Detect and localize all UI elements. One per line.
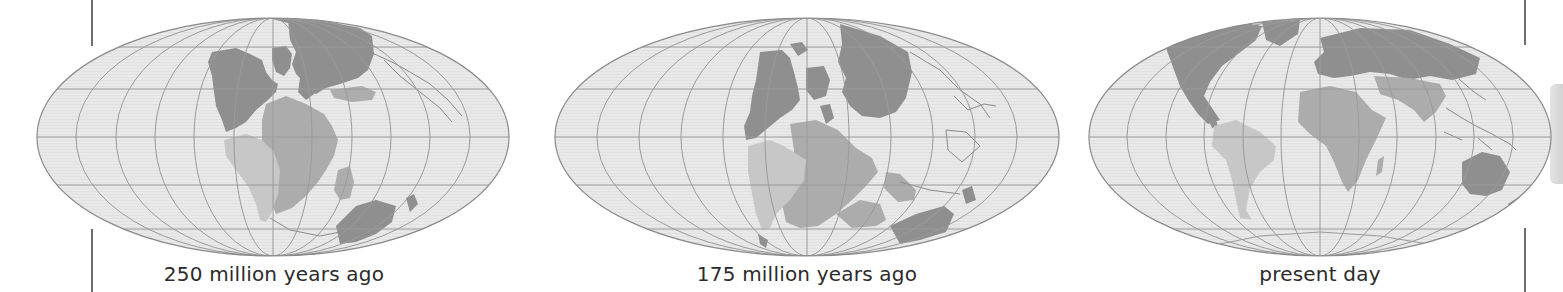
map-250-million-years-ago	[30, 18, 520, 256]
map-175-million-years-ago	[550, 18, 1065, 256]
caption-250-million-years-ago: 250 million years ago	[164, 262, 384, 286]
caption-175-million-years-ago: 175 million years ago	[697, 262, 917, 286]
map-present-day	[1080, 18, 1560, 256]
caption-present-day: present day	[1259, 262, 1380, 286]
continental-drift-figure: 250 million years ago 175 million years …	[0, 0, 1563, 292]
graticule	[1080, 18, 1560, 256]
